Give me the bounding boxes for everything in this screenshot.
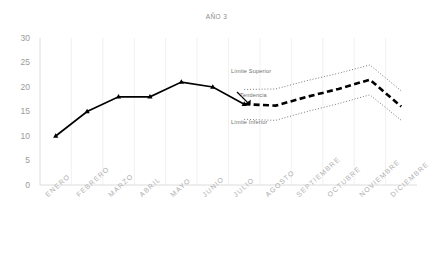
y-axis-tick-10: 10 — [4, 132, 30, 141]
chart-plot-area — [0, 0, 433, 255]
annotation-l-mite-inferior: Límite Inferior — [231, 119, 267, 125]
chart-container: AÑO 3 051015202530 ENEROFEBREROMARZOABRI… — [0, 0, 433, 255]
y-axis-tick-0: 0 — [4, 181, 30, 190]
y-axis-tick-15: 15 — [4, 107, 30, 116]
y-axis-tick-20: 20 — [4, 83, 30, 92]
data-point-markers — [53, 79, 247, 138]
y-axis-tick-25: 25 — [4, 58, 30, 67]
annotation-l-mite-superior: Límite Superior — [231, 68, 271, 74]
annotation-tendencia: Tendencia — [240, 92, 267, 98]
y-axis-tick-5: 5 — [4, 156, 30, 165]
y-axis-tick-30: 30 — [4, 34, 30, 43]
